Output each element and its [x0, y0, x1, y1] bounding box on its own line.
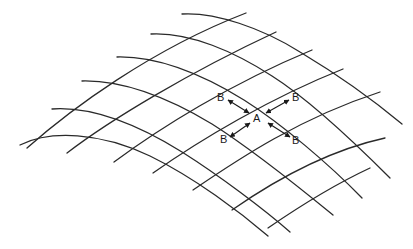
label-a-center: A [253, 112, 261, 124]
label-b-upper-right: B [292, 91, 299, 103]
arrow-a-to-b-lower-left-icon [230, 123, 250, 137]
mesh-line-descending [182, 14, 402, 124]
mesh-line-descending [52, 109, 290, 232]
diagram-svg: BBABB [0, 0, 413, 249]
mesh-line-ascending [268, 168, 370, 228]
mesh-line-ascending [114, 50, 312, 162]
label-b-upper-left: B [217, 91, 224, 103]
surface-mesh-diagram: BBABB [0, 0, 413, 249]
label-b-lower-right: B [292, 134, 299, 146]
mesh-line-ascending [153, 69, 343, 173]
arrow-a-to-b-upper-right-icon [266, 100, 289, 113]
mesh-line-descending [117, 57, 362, 198]
arrow-a-to-b-upper-left-icon [228, 100, 249, 113]
mesh-line-descending [151, 34, 390, 178]
mesh-lines-descending [20, 14, 402, 236]
label-b-lower-left: B [220, 133, 227, 145]
point-labels: BBABB [217, 91, 299, 146]
